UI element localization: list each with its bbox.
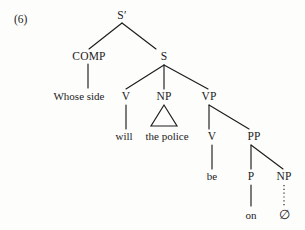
node-label-pp: PP [247,130,260,142]
terminal-the-police: the police [145,130,188,142]
terminal-on: on [246,209,258,221]
terminal-whose-side: Whose side [53,90,104,102]
node-label-v-aux: V [122,90,131,102]
edge-sbar-s [122,23,156,49]
tree-node-labels: S′ COMP S Whose side V NP VP will the po… [53,9,291,222]
edge-vp-pp [209,105,249,129]
tree-triangles [151,105,177,126]
syntax-tree-figure: (6) S′ COMP S Whose side [0,0,305,230]
terminal-be: be [207,170,218,182]
edge-sbar-comp [89,23,122,49]
node-label-np-subject: NP [156,90,171,102]
node-label-comp: COMP [72,50,105,62]
node-label-np-object: NP [276,170,291,182]
terminal-empty-category: ∅ [279,208,290,222]
tree-edges [88,23,284,206]
example-number: (6) [14,13,28,26]
node-label-v-main: V [208,130,217,142]
node-label-p: P [248,170,255,182]
edge-pp-np [251,145,283,169]
node-label-vp: VP [201,90,216,102]
node-label-sbar: S′ [117,9,126,21]
np-abbreviation-triangle [151,105,177,126]
node-label-s: S [161,50,168,62]
terminal-will: will [115,130,132,142]
edge-s-v [126,65,164,89]
syntax-tree-canvas: (6) S′ COMP S Whose side [0,0,305,230]
edge-s-vp [164,65,208,89]
